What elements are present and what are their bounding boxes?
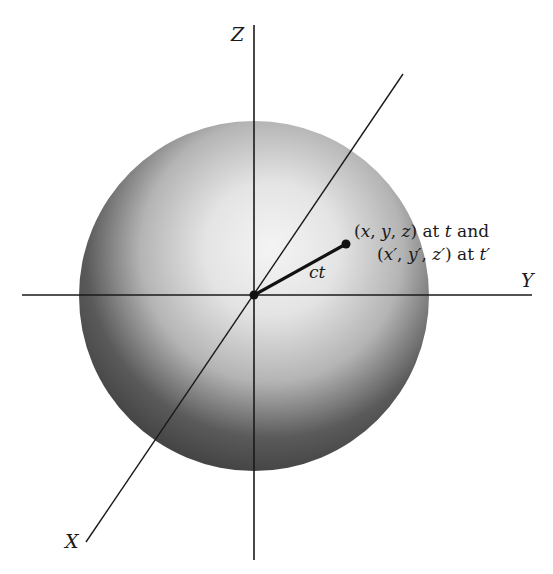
event-point xyxy=(342,240,351,249)
x-axis-label: X xyxy=(65,532,79,551)
coord-x: x xyxy=(361,221,371,241)
radius-label: ct xyxy=(309,264,325,281)
z-axis-label: Z xyxy=(231,25,244,44)
paren-close-at: ) at xyxy=(445,244,479,264)
origin-point xyxy=(250,291,259,300)
coord-y-prime: y′ xyxy=(408,244,421,264)
point-annotation-line-2: (x′, y′, z′) at t′ xyxy=(377,246,490,263)
y-axis-label: Y xyxy=(521,271,534,290)
time-t-prime: t′ xyxy=(479,244,490,264)
paren-close-at: ) at xyxy=(410,221,444,241)
diagram-canvas xyxy=(0,0,553,574)
paren-open: ( xyxy=(354,221,361,241)
paren-open: ( xyxy=(377,244,384,264)
coord-x-prime: x′ xyxy=(384,244,397,264)
coord-y: y xyxy=(381,221,391,241)
separator: , xyxy=(397,244,408,264)
time-t: t xyxy=(445,221,452,241)
coord-z-prime: z′ xyxy=(432,244,445,264)
and-word: and xyxy=(452,221,489,241)
separator: , xyxy=(421,244,432,264)
separator: , xyxy=(391,221,402,241)
separator: , xyxy=(370,221,381,241)
point-annotation-line-1: (x, y, z) at t and xyxy=(354,223,489,240)
